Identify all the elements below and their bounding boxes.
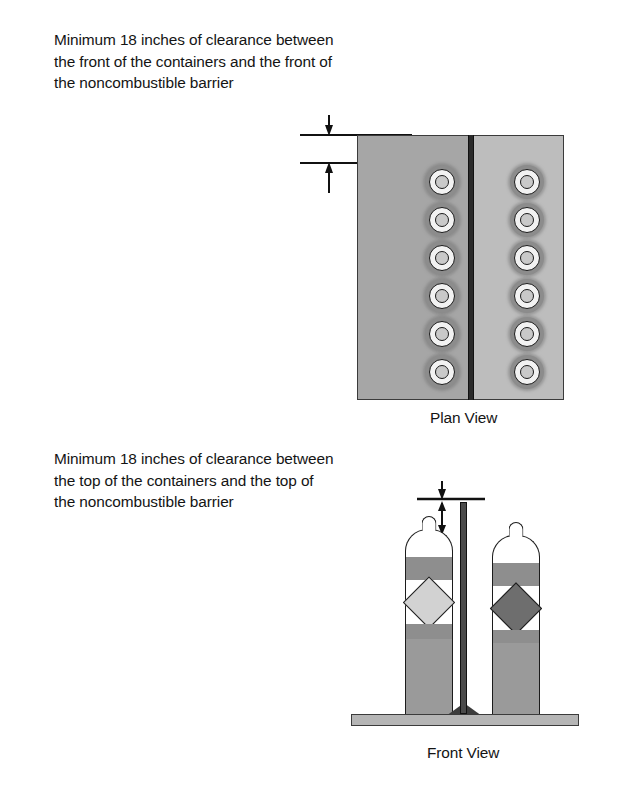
front-noncombustible-barrier [460,502,467,714]
container-body [405,556,453,714]
front-view-caption: Front View [427,744,499,762]
clearance-diagram-figure: Minimum 18 inches of clearance between t… [0,0,642,792]
plan-container-top-view [425,279,459,313]
plan-container-top-view [425,165,459,199]
container-shoulder [492,535,540,563]
plan-view-clearance-callout: Minimum 18 inches of clearance between t… [54,29,414,94]
container-body [492,562,540,714]
container-lower-body [493,643,539,714]
container-hazard-diamond-icon [403,576,455,628]
plan-container-top-view [425,355,459,389]
container-lower-band [493,630,539,643]
front-container-right [492,522,540,714]
plan-container-top-view [510,355,544,389]
front-container-left [405,516,453,714]
plan-container-top-view [425,241,459,275]
plan-container-top-view [510,241,544,275]
plan-noncombustible-barrier [468,135,474,400]
container-lower-body [406,639,452,714]
plan-container-top-view [425,317,459,351]
container-label-panel [493,586,539,630]
container-lower-band [406,624,452,639]
front-ground-platform [351,714,579,726]
plan-container-top-view [425,203,459,237]
plan-container-top-view [510,279,544,313]
plan-view-diagram [357,135,564,400]
plan-container-top-view [510,165,544,199]
container-hazard-diamond-icon [490,582,542,634]
container-shoulder [405,529,453,557]
plan-view-caption: Plan View [430,409,497,427]
container-valve-icon [422,516,437,531]
plan-container-top-view [510,203,544,237]
container-valve-icon [509,522,524,537]
container-label-panel [406,580,452,624]
plan-container-top-view [510,317,544,351]
front-view-diagram [345,487,585,732]
